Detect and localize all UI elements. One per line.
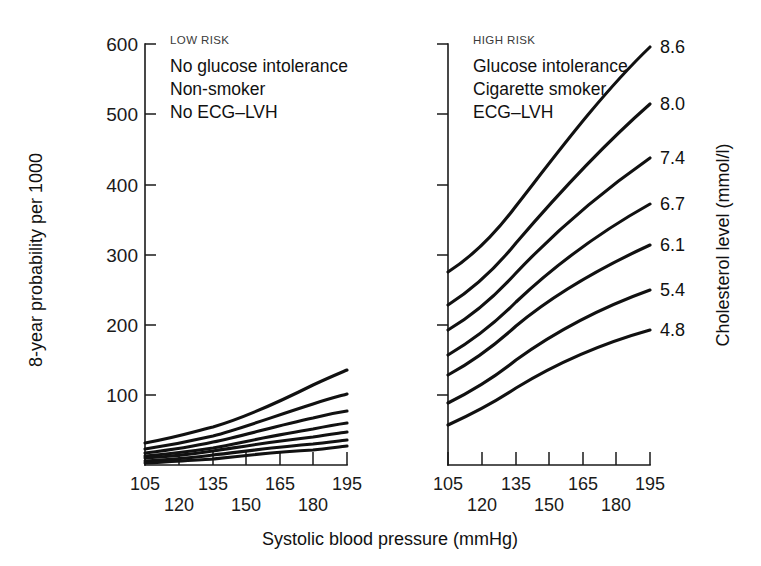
chol-label-8.6: 8.6	[660, 37, 685, 57]
chol-label-6.7: 6.7	[660, 194, 685, 214]
y-axis-title: 8-year probability per 1000	[26, 153, 46, 367]
right-xtick-label-120: 120	[467, 495, 497, 515]
right-panel-condition-1: Glucose intolerance	[473, 56, 628, 76]
chol-label-7.4: 7.4	[660, 148, 685, 168]
ytick-label-500: 500	[106, 104, 138, 125]
left-panel-condition-2: Non-smoker	[170, 79, 265, 99]
left-panel-condition-3: No ECG–LVH	[170, 102, 278, 122]
right-axis-title: Cholesterol level (mmol/l)	[713, 143, 733, 346]
left-xtick-label-120: 120	[164, 495, 194, 515]
right-xtick-label-105: 105	[433, 474, 463, 494]
left-xtick-label-165: 165	[265, 474, 295, 494]
chol-label-6.1: 6.1	[660, 235, 685, 255]
right-panel-condition-2: Cigarette smoker	[473, 79, 606, 99]
left-xtick-label-150: 150	[231, 495, 261, 515]
x-axis-title: Systolic blood pressure (mmHg)	[262, 529, 518, 549]
left-xtick-label-195: 195	[332, 474, 362, 494]
left-panel-curves	[145, 370, 347, 463]
right-xtick-label-150: 150	[534, 495, 564, 515]
right-panel-risk-tag: HIGH RISK	[473, 34, 535, 46]
right-curve-7.4	[448, 158, 650, 330]
left-panel-condition-1: No glucose intolerance	[170, 56, 348, 76]
ytick-label-100: 100	[106, 385, 138, 406]
chart-svg: 600 500 400 300 200 100 105 120 135 150 …	[0, 0, 761, 566]
right-curve-4.8	[448, 330, 650, 425]
right-panel-condition-3: ECG–LVH	[473, 102, 553, 122]
left-xtick-label-105: 105	[130, 474, 160, 494]
left-xtick-label-135: 135	[198, 474, 228, 494]
right-curve-6.7	[448, 204, 650, 355]
chol-label-8.0: 8.0	[660, 94, 685, 114]
right-xtick-label-180: 180	[601, 495, 631, 515]
ytick-label-400: 400	[106, 175, 138, 196]
ytick-label-600: 600	[106, 34, 138, 55]
chart-figure: 600 500 400 300 200 100 105 120 135 150 …	[0, 0, 761, 566]
right-xtick-label-195: 195	[635, 474, 665, 494]
left-curve-8.6	[145, 370, 347, 443]
right-xtick-label-165: 165	[568, 474, 598, 494]
right-xtick-label-135: 135	[501, 474, 531, 494]
chol-label-5.4: 5.4	[660, 280, 685, 300]
ytick-label-200: 200	[106, 315, 138, 336]
chol-label-4.8: 4.8	[660, 320, 685, 340]
left-panel-risk-tag: LOW RISK	[170, 34, 229, 46]
ytick-label-300: 300	[106, 245, 138, 266]
left-xtick-label-180: 180	[298, 495, 328, 515]
